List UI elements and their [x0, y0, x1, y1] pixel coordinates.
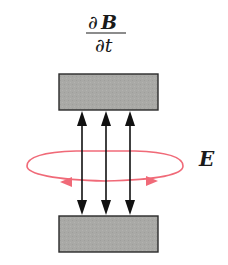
e-loop-back-right — [105, 151, 183, 181]
dB-dt-label: ∂ B ∂t — [86, 11, 126, 56]
arrowhead-up-icon — [77, 111, 87, 126]
top-plate — [59, 74, 158, 110]
arrowhead-down-icon — [101, 200, 111, 215]
e-loop-back-left — [27, 151, 105, 181]
field-line-right — [125, 111, 135, 215]
field-line-left — [77, 111, 87, 215]
B-symbol: B — [100, 11, 117, 33]
arrowhead-up-icon — [101, 111, 111, 126]
partial-symbol: ∂ — [88, 11, 98, 33]
e-field-label: E — [198, 147, 215, 171]
partial-t: ∂t — [95, 34, 113, 56]
arrowhead-up-icon — [125, 111, 135, 126]
bottom-plate — [59, 216, 158, 252]
arrowhead-down-icon — [77, 200, 87, 215]
field-line-middle — [101, 111, 111, 215]
arrowhead-down-icon — [125, 200, 135, 215]
induction-diagram: ∂ B ∂t E — [0, 0, 228, 265]
